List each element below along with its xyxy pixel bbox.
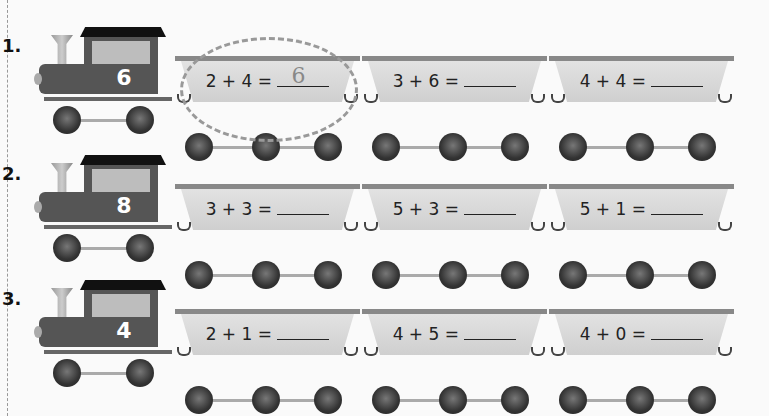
smokestack-icon — [51, 163, 73, 193]
equation-text: 4 + 5 = — [393, 324, 459, 344]
answer-blank[interactable] — [464, 323, 516, 340]
wheel-icon — [626, 386, 654, 414]
problem-row: 1. 6 2 + 4 = 6 3 + 6 = — [0, 27, 769, 157]
answer-blank[interactable] — [651, 198, 703, 215]
equation: 2 + 1 = — [175, 323, 360, 344]
coupler-icon — [531, 347, 545, 356]
problem-number: 3. — [2, 288, 21, 309]
engine-roof — [80, 155, 166, 165]
wheel-icon — [185, 386, 213, 414]
car-rim — [549, 309, 734, 314]
answer-blank[interactable] — [464, 198, 516, 215]
cab-window — [92, 41, 150, 64]
bumper — [34, 73, 42, 85]
coupler-icon — [177, 347, 191, 356]
coupler-icon — [364, 94, 378, 103]
answer-blank[interactable] — [277, 323, 329, 340]
equation-text: 5 + 3 = — [393, 199, 459, 219]
coupler-icon — [364, 347, 378, 356]
coupler-icon — [718, 94, 732, 103]
equation: 5 + 3 = — [362, 198, 547, 219]
train-car: 4 + 0 = — [549, 309, 734, 399]
train-car: 4 + 5 = — [362, 309, 547, 399]
wheel-icon — [126, 234, 154, 262]
train-car: 5 + 3 = — [362, 184, 547, 274]
bumper — [34, 326, 42, 338]
car-rim — [362, 184, 547, 189]
coupler-icon — [364, 222, 378, 231]
answer-blank[interactable] — [277, 198, 329, 215]
train-car: 3 + 3 = — [175, 184, 360, 274]
wheel-icon — [252, 386, 280, 414]
coupler-icon — [551, 222, 565, 231]
problem-row: 3. 4 2 + 1 = 4 + 5 = — [0, 280, 769, 410]
car-rim — [362, 56, 547, 61]
car-rim — [549, 184, 734, 189]
engine-base — [44, 225, 172, 229]
wheel-icon — [501, 386, 529, 414]
answer-blank[interactable] — [651, 323, 703, 340]
engine-base — [44, 97, 172, 101]
problem-number: 2. — [2, 163, 21, 184]
car-rim — [362, 309, 547, 314]
train-car: 5 + 1 = — [549, 184, 734, 274]
wheel-icon — [53, 234, 81, 262]
equation: 4 + 5 = — [362, 323, 547, 344]
equation: 3 + 3 = — [175, 198, 360, 219]
equation-text: 4 + 0 = — [580, 324, 646, 344]
car-rim — [175, 184, 360, 189]
equation-text: 5 + 1 = — [580, 199, 646, 219]
wheel-icon — [53, 359, 81, 387]
cab-window — [92, 169, 150, 192]
engine-number: 6 — [94, 65, 154, 90]
wheel-icon — [126, 106, 154, 134]
wheel-icon — [372, 386, 400, 414]
equation: 4 + 4 = — [549, 70, 734, 91]
equation-text: 2 + 1 = — [206, 324, 272, 344]
coupler-icon — [177, 222, 191, 231]
example-circle — [180, 37, 358, 142]
wheel-icon — [126, 359, 154, 387]
smokestack-icon — [51, 288, 73, 318]
train-car: 3 + 6 = — [362, 56, 547, 146]
wheel-icon — [439, 386, 467, 414]
bumper — [34, 201, 42, 213]
coupler-icon — [551, 94, 565, 103]
engine-roof — [80, 27, 166, 37]
equation-text: 4 + 4 = — [580, 71, 646, 91]
coupler-icon — [344, 222, 358, 231]
coupler-icon — [344, 347, 358, 356]
car-rim — [175, 309, 360, 314]
train-car: 2 + 1 = — [175, 309, 360, 399]
coupler-icon — [718, 347, 732, 356]
equation: 4 + 0 = — [549, 323, 734, 344]
train-engine: 4 — [34, 280, 174, 395]
answer-blank[interactable] — [651, 70, 703, 87]
coupler-icon — [531, 222, 545, 231]
equation-text: 3 + 6 = — [393, 71, 459, 91]
wheel-icon — [314, 386, 342, 414]
coupler-icon — [551, 347, 565, 356]
equation: 5 + 1 = — [549, 198, 734, 219]
problem-row: 2. 8 3 + 3 = 5 + 3 = — [0, 155, 769, 285]
smokestack-icon — [51, 35, 73, 65]
cab-window — [92, 294, 150, 317]
train-engine: 8 — [34, 155, 174, 270]
wheel-icon — [688, 386, 716, 414]
train-engine: 6 — [34, 27, 174, 142]
coupler-icon — [718, 222, 732, 231]
wheel-icon — [53, 106, 81, 134]
engine-number: 8 — [94, 193, 154, 218]
equation-text: 3 + 3 = — [206, 199, 272, 219]
engine-roof — [80, 280, 166, 290]
train-car: 4 + 4 = — [549, 56, 734, 146]
wheel-icon — [559, 386, 587, 414]
problem-number: 1. — [2, 35, 21, 56]
engine-number: 4 — [94, 318, 154, 343]
answer-blank[interactable] — [464, 70, 516, 87]
coupler-icon — [531, 94, 545, 103]
engine-base — [44, 350, 172, 354]
equation: 3 + 6 = — [362, 70, 547, 91]
car-rim — [549, 56, 734, 61]
